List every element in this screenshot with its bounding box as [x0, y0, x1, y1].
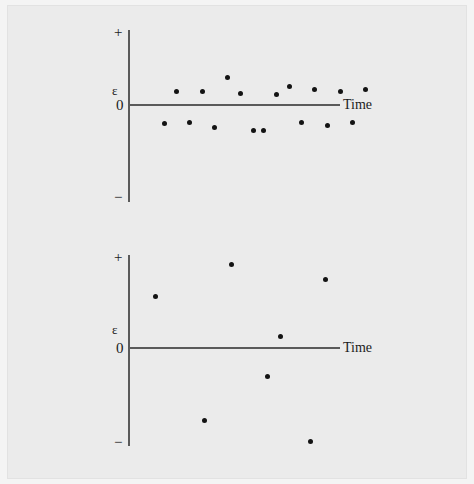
top-positive-label: +: [114, 25, 122, 40]
top-time-axis-label: Time: [343, 98, 372, 112]
data-point: [225, 75, 230, 80]
data-point: [350, 120, 355, 125]
data-point: [312, 87, 317, 92]
top-residual-plot: + ε 0 − Time: [0, 0, 474, 230]
top-epsilon-label: ε: [112, 84, 117, 97]
data-point: [338, 89, 343, 94]
bottom-vertical-axis: [128, 255, 130, 446]
data-point: [278, 334, 283, 339]
bottom-negative-label: −: [114, 435, 122, 450]
data-point: [261, 128, 266, 133]
data-point: [162, 121, 167, 126]
data-point: [274, 92, 279, 97]
data-point: [202, 418, 207, 423]
data-point: [363, 87, 368, 92]
figure-root: + ε 0 − Time + ε 0 − Time: [0, 0, 474, 484]
data-point: [187, 120, 192, 125]
data-point: [323, 277, 328, 282]
data-point: [238, 91, 243, 96]
data-point: [200, 89, 205, 94]
data-point: [174, 89, 179, 94]
data-point: [229, 262, 234, 267]
top-zero-axis-line: [128, 104, 340, 106]
data-point: [265, 374, 270, 379]
bottom-positive-label: +: [114, 250, 122, 265]
data-point: [325, 123, 330, 128]
bottom-residual-plot: + ε 0 − Time: [0, 230, 474, 484]
data-point: [308, 439, 313, 444]
top-negative-label: −: [114, 190, 122, 205]
data-point: [212, 125, 217, 130]
bottom-epsilon-label: ε: [112, 323, 117, 336]
bottom-time-axis-label: Time: [343, 341, 372, 355]
data-point: [153, 294, 158, 299]
bottom-zero-axis-line: [128, 347, 340, 349]
bottom-zero-label: 0: [116, 341, 124, 356]
data-point: [251, 128, 256, 133]
data-point: [299, 120, 304, 125]
data-point: [287, 84, 292, 89]
top-vertical-axis: [128, 30, 130, 202]
top-zero-label: 0: [116, 98, 124, 113]
